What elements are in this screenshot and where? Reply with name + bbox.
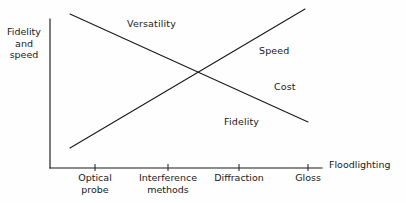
y-axis-label: Fidelity and speed [2, 26, 46, 61]
annotation-cost: Cost [274, 81, 296, 92]
chart-figure: Fidelity and speed Floodlighting Optical… [0, 0, 406, 203]
series-line-versatility [70, 14, 308, 122]
tick-label-line-1: Gloss [265, 172, 351, 184]
x-axis-label: Floodlighting [329, 159, 391, 170]
annotation-versatility: Versatility [127, 18, 176, 29]
y-axis-label-line-1: Fidelity [2, 26, 46, 38]
annotation-fidelity: Fidelity [224, 116, 259, 127]
y-axis-label-line-3: speed [2, 49, 46, 61]
annotation-speed: Speed [259, 45, 290, 56]
tick-label-gloss: Gloss [265, 172, 351, 184]
tick-label-line-2: methods [125, 184, 211, 196]
y-axis-label-line-2: and [2, 38, 46, 50]
